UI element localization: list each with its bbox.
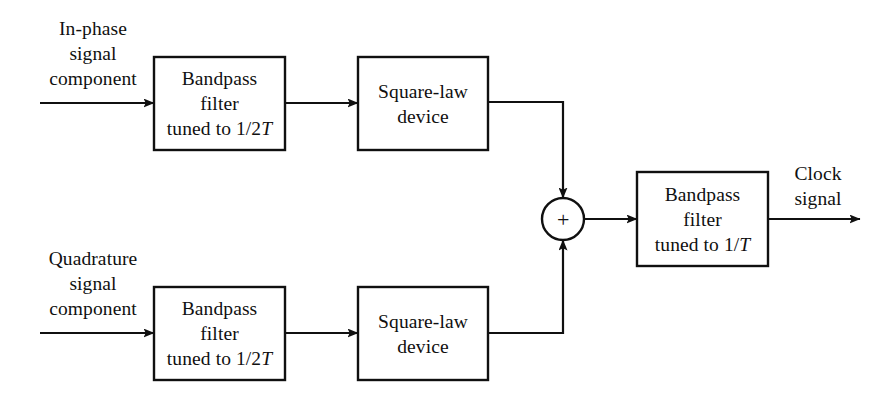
in-phase-label-line2: signal <box>69 41 116 66</box>
bandpass-output-line3: tuned to 1/T <box>655 232 750 257</box>
bandpass-output-line3-text: tuned to 1/ <box>655 234 740 255</box>
summing-junction-plus-icon: + <box>557 209 569 231</box>
clock-signal-line1: Clock <box>794 161 841 186</box>
bandpass-output-line1: Bandpass <box>665 182 741 207</box>
square-law-bottom-line2: device <box>397 334 448 359</box>
bandpass-top-line3-text: tuned to 1/2 <box>167 118 261 139</box>
bandpass-bottom-line3: tuned to 1/2T <box>167 346 272 371</box>
quadrature-label-line3: component <box>49 296 137 321</box>
bandpass-output-label: Bandpass filter tuned to 1/T <box>637 172 768 266</box>
bandpass-output-line2: filter <box>683 207 722 232</box>
bandpass-bottom-label: Bandpass filter tuned to 1/2T <box>154 287 285 380</box>
bandpass-bottom-line3-text: tuned to 1/2 <box>167 348 261 369</box>
bandpass-bottom-line1: Bandpass <box>182 296 258 321</box>
square-law-bottom-line1: Square-law <box>378 309 468 334</box>
bandpass-top-line3: tuned to 1/2T <box>167 116 272 141</box>
in-phase-input-label: In-phase signal component <box>23 16 163 91</box>
in-phase-label-line1: In-phase <box>59 16 127 41</box>
clock-signal-output-label: Clock signal <box>773 161 863 211</box>
clock-signal-line2: signal <box>794 186 841 211</box>
bandpass-top-line1: Bandpass <box>182 66 258 91</box>
in-phase-label-line3: component <box>49 66 137 91</box>
block-diagram-figure: In-phase signal component Quadrature sig… <box>0 0 887 404</box>
quadrature-label-line2: signal <box>69 271 116 296</box>
square-law-bottom-label: Square-law device <box>358 287 488 380</box>
quadrature-input-label: Quadrature signal component <box>13 246 173 321</box>
bandpass-top-line3-symbol: T <box>261 118 272 139</box>
bandpass-top-label: Bandpass filter tuned to 1/2T <box>154 57 285 150</box>
quadrature-label-line1: Quadrature <box>49 246 138 271</box>
square-law-top-line2: device <box>397 104 448 129</box>
bandpass-bottom-line3-symbol: T <box>261 348 272 369</box>
square-law-top-label: Square-law device <box>358 57 488 150</box>
bandpass-output-line3-symbol: T <box>739 234 750 255</box>
square-law-top-to-summer-line <box>488 102 563 198</box>
square-law-top-line1: Square-law <box>378 79 468 104</box>
bandpass-bottom-line2: filter <box>200 321 239 346</box>
bandpass-top-line2: filter <box>200 91 239 116</box>
square-law-bottom-to-summer-line <box>488 240 563 333</box>
